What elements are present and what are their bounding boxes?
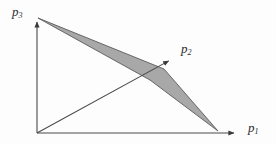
p2-axis-line — [37, 61, 169, 133]
figure-canvas — [0, 0, 276, 144]
axis-label-p2-symbol: p — [181, 41, 188, 56]
axis-label-p3: p3 — [12, 4, 23, 20]
axis-label-p1-symbol: p — [248, 120, 255, 135]
axis-label-p1-subscript: 1 — [255, 127, 259, 136]
axis-label-p3-subscript: 3 — [19, 11, 23, 20]
axis-label-p2: p2 — [181, 41, 192, 57]
axis-label-p3-symbol: p — [12, 4, 19, 19]
shaded-region — [38, 18, 218, 131]
axis-label-p2-subscript: 2 — [188, 48, 192, 57]
price-simplex-figure: p3 p2 p1 — [0, 0, 276, 144]
axis-label-p1: p1 — [248, 120, 259, 136]
